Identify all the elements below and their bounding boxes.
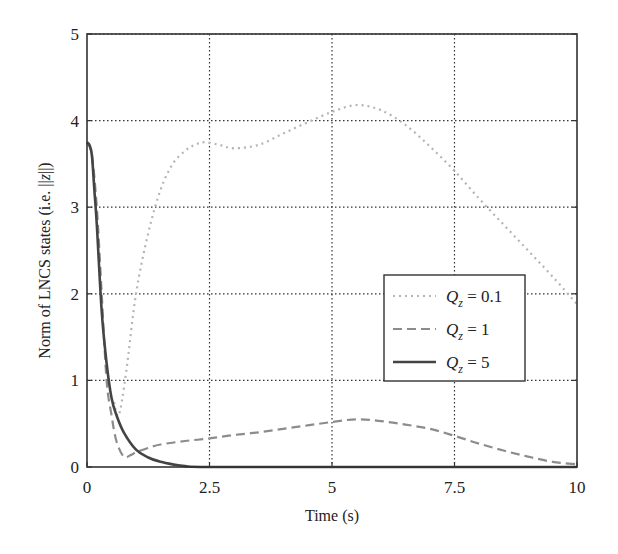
y-tick-label: 4	[71, 112, 80, 131]
legend: Qz = 0.1Qz = 1Qz = 5	[384, 275, 525, 381]
y-axis-label: Norm of LNCS states (i.e. ||z||)	[36, 162, 54, 358]
y-tick-label: 3	[71, 198, 80, 217]
line-chart: 02.557.510012345 Time (s) Norm of LNCS s…	[0, 0, 618, 554]
grid-lines	[87, 34, 577, 467]
y-tick-label: 2	[71, 285, 80, 304]
x-axis-label: Time (s)	[305, 507, 359, 525]
y-tick-label: 0	[71, 458, 80, 477]
x-tick-label: 0	[83, 478, 92, 497]
y-tick-label: 1	[71, 371, 80, 390]
x-tick-label: 7.5	[444, 478, 465, 497]
x-tick-label: 10	[569, 478, 586, 497]
y-tick-label: 5	[71, 25, 80, 44]
axis-ticks: 02.557.510012345	[71, 25, 586, 497]
x-tick-label: 5	[328, 478, 337, 497]
x-tick-label: 2.5	[199, 478, 220, 497]
